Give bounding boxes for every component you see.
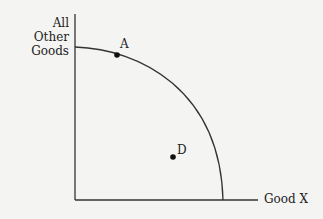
x-axis-label: Good X [264,192,308,206]
ppf-diagram [0,0,323,219]
ppf-curve [75,47,223,200]
point-d-marker [170,154,176,160]
point-d-label: D [177,143,187,157]
point-a-marker [114,52,120,58]
point-a-label: A [120,37,129,51]
